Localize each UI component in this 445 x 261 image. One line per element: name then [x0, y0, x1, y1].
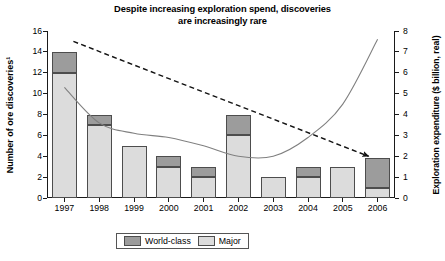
plot-area: Number of ore discoveries¹ Exploration e… [47, 31, 395, 198]
left-tick-label: 12 [2, 68, 42, 77]
x-tick-mark [168, 198, 169, 202]
left-tick-label: 10 [2, 89, 42, 98]
legend-label-major: Major [219, 236, 241, 246]
right-tick-label: 5 [403, 89, 433, 98]
right-tick-mark [395, 51, 399, 52]
x-tick-mark [64, 198, 65, 202]
left-tick-label: 4 [2, 152, 42, 161]
right-tick-mark [395, 93, 399, 94]
left-tick-label: 14 [2, 47, 42, 56]
x-tick-mark [273, 198, 274, 202]
discovery-trend-arrow [73, 41, 368, 156]
x-tick-mark [99, 198, 100, 202]
x-tick-mark [377, 198, 378, 202]
right-tick-label: 6 [403, 68, 433, 77]
chart-root: Despite increasing exploration spend, di… [0, 0, 445, 261]
right-tick-label: 3 [403, 131, 433, 140]
legend-item-major: Major [198, 236, 241, 246]
right-tick-mark [395, 177, 399, 178]
right-tick-mark [395, 72, 399, 73]
right-tick-mark [395, 198, 399, 199]
left-tick-label: 2 [2, 173, 42, 182]
right-tick-label: 7 [403, 47, 433, 56]
right-tick-label: 1 [403, 173, 433, 182]
right-tick-label: 8 [403, 27, 433, 36]
left-tick-label: 0 [2, 194, 42, 203]
right-tick-mark [395, 31, 399, 32]
right-tick-label: 0 [403, 194, 433, 203]
x-tick-mark [342, 198, 343, 202]
x-tick-mark [134, 198, 135, 202]
x-tick-label: 2006 [358, 203, 398, 213]
left-tick-label: 16 [2, 27, 42, 36]
left-tick-label: 8 [2, 110, 42, 119]
right-tick-mark [395, 156, 399, 157]
x-tick-mark [308, 198, 309, 202]
line-overlay [47, 31, 395, 198]
right-tick-label: 2 [403, 152, 433, 161]
left-tick-label: 6 [2, 131, 42, 140]
legend-item-world-class: World-class [124, 236, 191, 246]
chart-title-line2: are increasingly rare [0, 15, 445, 27]
legend-label-world-class: World-class [145, 236, 191, 246]
right-tick-label: 4 [403, 110, 433, 119]
legend: World-class Major [116, 233, 249, 249]
chart-title: Despite increasing exploration spend, di… [0, 3, 445, 27]
x-tick-mark [238, 198, 239, 202]
right-tick-mark [395, 114, 399, 115]
chart-title-line1: Despite increasing exploration spend, di… [0, 3, 445, 15]
right-tick-mark [395, 135, 399, 136]
world-class-swatch-icon [124, 236, 141, 246]
major-swatch-icon [198, 236, 215, 246]
x-tick-mark [203, 198, 204, 202]
